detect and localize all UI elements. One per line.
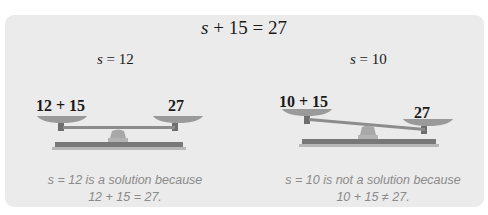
right-case-header: s = 10 [350,51,387,68]
balanced-scale-icon [30,112,230,162]
left-case-header: s = 12 [97,51,134,68]
left-caption-line1: s = 12 is a solution because [20,172,230,189]
right-caption-line2: 10 + 15 ≠ 27. [258,189,488,206]
equation-title: s + 15 = 27 [0,17,488,39]
right-header-value: = 10 [356,51,387,67]
right-caption-line1: s = 10 is not a solution because [258,172,488,189]
equation-rest: + 15 = 27 [208,17,286,38]
left-caption: s = 12 is a solution because 12 + 15 = 2… [20,172,230,206]
right-caption: s = 10 is not a solution because 10 + 15… [258,172,488,206]
left-header-value: = 12 [103,51,134,67]
left-caption-line2: 12 + 15 = 27. [20,189,230,206]
unbalanced-scale-icon [280,105,480,165]
